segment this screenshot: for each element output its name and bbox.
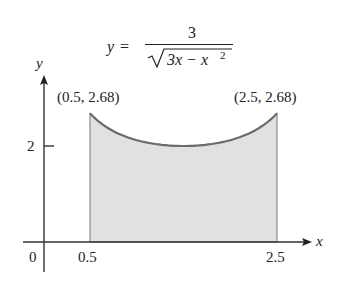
x-tick-label-0.5: 0.5 xyxy=(78,250,97,265)
x-axis-label: x xyxy=(316,234,323,249)
chart-title-formula: y = 3 3x − x 2 xyxy=(0,0,343,70)
formula-radicand: 3x − x xyxy=(167,52,208,67)
x-tick-label-2.5: 2.5 xyxy=(266,250,285,265)
formula-exponent: 2 xyxy=(220,48,226,63)
y-tick-label-2: 2 xyxy=(27,139,35,154)
origin-label: 0 xyxy=(29,250,37,265)
annotation-right: (2.5, 2.68) xyxy=(234,90,297,105)
annotation-left: (0.5, 2.68) xyxy=(57,90,120,105)
